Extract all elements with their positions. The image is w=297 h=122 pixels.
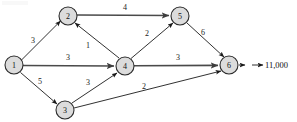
edge-weight-4-2: 1: [86, 41, 90, 50]
edge-3-to-6: [74, 71, 221, 108]
edge-4-to-2: [75, 23, 119, 58]
output-value-label: 11,000: [265, 60, 288, 70]
edge-4-to-5: [131, 23, 173, 59]
output-layer: 11,000: [265, 60, 288, 70]
edge-weight-4-5: 2: [145, 29, 149, 38]
node-6-label: 6: [227, 61, 231, 70]
edge-weight-4-6: 3: [176, 53, 180, 62]
node-3[interactable]: 3: [56, 101, 74, 119]
network-diagram: 3 3 5 4 1 2 3 3 2 6 1 2 3: [0, 0, 297, 122]
node-2[interactable]: 2: [59, 7, 77, 25]
node-6[interactable]: 6: [220, 56, 238, 74]
edge-2-to-5: [77, 15, 169, 16]
edge-1-to-4: [23, 66, 114, 67]
nodes-layer: 1 2 3 4 5 6: [5, 7, 238, 119]
node-3-label: 3: [63, 106, 67, 115]
network-graph-svg: 3 3 5 4 1 2 3 3 2 6 1 2 3: [0, 0, 297, 122]
node-5-label: 5: [178, 12, 182, 21]
node-4[interactable]: 4: [116, 57, 134, 75]
edge-weight-1-4: 3: [66, 53, 70, 62]
node-1-label: 1: [12, 61, 16, 70]
node-2-label: 2: [66, 12, 70, 21]
edge-weight-5-6: 6: [201, 28, 205, 37]
node-4-label: 4: [123, 62, 127, 71]
edge-weight-2-5: 4: [123, 3, 127, 12]
edge-5-to-6: [187, 23, 224, 57]
edge-weight-1-2: 3: [31, 36, 35, 45]
edge-weight-3-6: 2: [142, 82, 146, 91]
edge-weight-1-3: 5: [38, 77, 42, 86]
node-5[interactable]: 5: [171, 7, 189, 25]
node-1[interactable]: 1: [5, 56, 23, 74]
edge-weight-3-4: 3: [86, 78, 90, 87]
edge-1-to-2: [22, 21, 61, 60]
